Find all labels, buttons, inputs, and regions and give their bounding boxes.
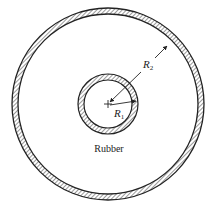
r1-label: R1 [113,107,125,121]
r2-label: R2 [142,58,154,72]
r2-dimension-arrow [110,46,167,102]
diagram-canvas: R2 R1 Rubber [0,0,216,206]
rubber-label: Rubber [94,143,124,154]
